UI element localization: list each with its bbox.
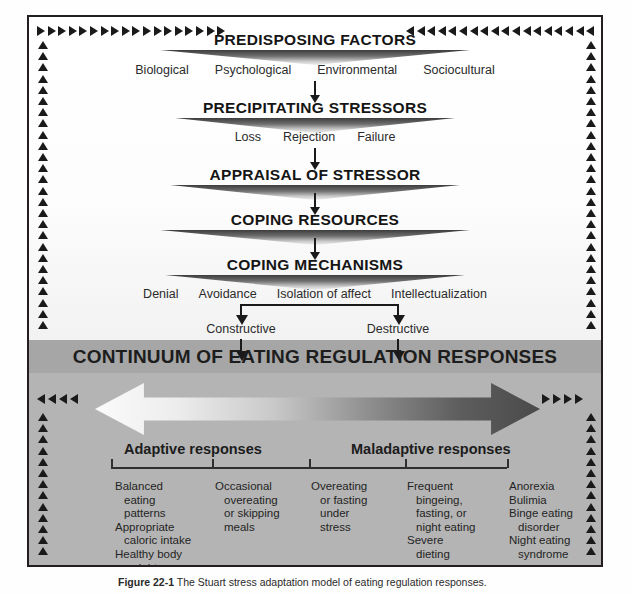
term: Loss [235,130,261,144]
response-line: night eating [407,521,475,535]
connector-shaft [314,238,316,252]
response-line: meals [215,521,280,535]
response-line: or fasting [311,494,367,508]
stage-title: PREDISPOSING FACTORS [29,31,601,49]
triangle-up-icon [38,310,48,318]
response-line: weight [115,562,191,567]
stage-title: COPING RESOURCES [29,211,601,229]
stage-5: COPING MECHANISMS [29,256,601,290]
scale-tick [212,459,214,468]
triangle-up-icon [586,525,596,533]
term: Biological [135,63,189,77]
scale-tick [405,459,407,468]
response-column-2: Occasionalovereatingor skippingmeals [215,480,280,534]
term: Sociocultural [423,63,495,77]
term: Intellectualization [391,287,487,301]
response-line: Bulimia [509,494,573,508]
triangle-up-icon [586,536,596,544]
response-line: syndrome [509,548,573,562]
caption-label: Figure 22-1 [118,576,174,588]
triangle-left-icon [48,394,56,404]
response-line: Occasional [215,480,280,494]
figure-caption: Figure 22-1 The Stuart stress adaptation… [118,576,618,588]
destructive-label: Destructive [367,322,430,336]
stage-terms: BiologicalPsychologicalEnvironmentalSoci… [29,63,601,77]
triangle-right-icon [564,394,572,404]
stage-title: PRECIPITATING STRESSORS [29,99,601,117]
response-line: Severe [407,534,475,548]
continuum-title: CONTINUUM OF EATING REGULATION RESPONSES [29,340,601,373]
triangle-up-icon [586,514,596,522]
triangle-up-icon [38,491,48,499]
response-line: Balanced [115,480,191,494]
triangle-up-icon [586,310,596,318]
triangle-up-icon [586,424,596,432]
triangle-up-icon [586,491,596,499]
continuum-double-arrow [93,381,542,437]
triangle-up-icon [586,435,596,443]
triangle-left-icon [59,394,67,404]
response-column-1: BalancedeatingpatternsAppropriatecaloric… [115,480,191,567]
stage-2: PRECIPITATING STRESSORS [29,99,601,133]
triangle-up-icon [38,547,48,555]
stage-terms: DenialAvoidanceIsolation of affectIntell… [29,287,601,301]
response-line: Healthy body [115,548,191,562]
triangle-up-icon [38,480,48,488]
term: Psychological [215,63,291,77]
triangle-up-icon [586,153,596,161]
response-line: fasting, or [407,507,475,521]
connector-shaft [314,81,316,95]
response-line: overeating [215,494,280,508]
triangle-up-icon [38,514,48,522]
response-line: Anorexia [509,480,573,494]
response-line: Night eating [509,534,573,548]
response-line: Appropriate [115,521,191,535]
response-line: bingeing, [407,494,475,508]
maladaptive-responses-label: Maladaptive responses [351,441,511,457]
triangle-right-icon [542,394,550,404]
response-line: eating [115,494,191,508]
triangle-up-icon [586,86,596,94]
triangle-up-icon [38,424,48,432]
caption-text: The Stuart stress adaptation model of ea… [177,576,487,588]
triangle-up-icon [586,458,596,466]
term: Isolation of affect [277,287,371,301]
scale-tick [507,459,509,468]
double-arrow-fill [95,383,540,435]
response-line: stress [311,521,367,535]
response-line: patterns [115,507,191,521]
triangle-up-icon [586,480,596,488]
term: Rejection [283,130,335,144]
stage-title: COPING MECHANISMS [29,256,601,274]
triangle-up-icon [38,447,48,455]
triangle-up-icon [586,547,596,555]
triangle-up-icon [586,447,596,455]
connector-shaft [314,148,316,162]
response-line: under [311,507,367,521]
triangle-left-icon [70,394,78,404]
response-column-5: AnorexiaBulimiaBinge eatingdisorderNight… [509,480,573,562]
triangle-up-icon [586,503,596,511]
connector-shaft [314,193,316,207]
response-line: or skipping [215,507,280,521]
triangle-left-icon [37,394,45,404]
triangle-up-icon [38,321,48,329]
stage-1: PREDISPOSING FACTORS [29,31,601,65]
triangle-up-icon [586,469,596,477]
response-line: Overeating [311,480,367,494]
term: Denial [143,287,178,301]
triangle-right-icon [553,394,561,404]
scale-tick [111,459,113,468]
response-line: Frequent [407,480,475,494]
triangle-up-icon [38,413,48,421]
response-line: dieting [407,548,475,562]
stage-terms: LossRejectionFailure [29,130,601,144]
triangle-up-icon [586,321,596,329]
triangle-up-icon [38,469,48,477]
constructive-label: Constructive [206,322,275,336]
triangle-up-icon [38,503,48,511]
term: Avoidance [199,287,257,301]
stage-title: APPRAISAL OF STRESSOR [29,166,601,184]
response-line: disorder [509,521,573,535]
term: Failure [357,130,395,144]
